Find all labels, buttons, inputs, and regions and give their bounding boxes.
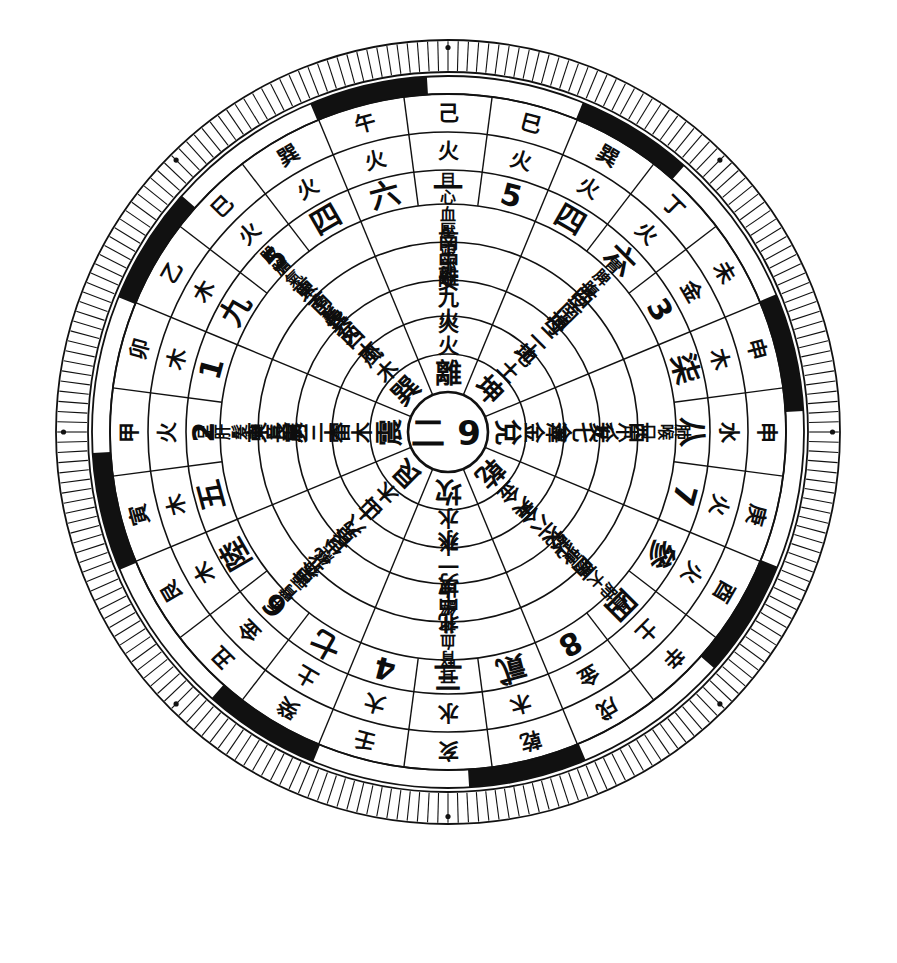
center-label-right: 9	[457, 413, 481, 453]
outer-element-glyph: 火	[155, 422, 179, 443]
outer-stem-branch-glyph: 己	[438, 101, 459, 125]
ring-text-layer: 己火一巳火5巽火四丁火六未金3申木柒申水八庚火7酉火參辛土四戌金8乾木貳亥水三壬…	[117, 101, 779, 763]
outer-element-glyph: 火	[676, 557, 707, 587]
trigram-element-glyph: 金	[522, 421, 546, 444]
luopan-figure-canvas: 己火一巳火5巽火四丁火六未金3申木柒申水八庚火7酉火參辛土四戌金8乾木貳亥水三壬…	[0, 0, 897, 963]
outer-stem-branch-glyph: 午	[352, 110, 378, 139]
outer-stem-branch-glyph: 卯	[126, 336, 155, 362]
outer-number-glyph: 貳	[492, 648, 530, 690]
outer-element-glyph: 木	[189, 276, 221, 308]
outer-stem-branch-glyph: 乾	[517, 726, 543, 755]
outer-element-glyph: 金	[675, 276, 707, 308]
outer-number-glyph: 九	[213, 288, 258, 331]
outer-element-glyph: 火	[233, 217, 265, 249]
trigram-element-glyph: 澤	[544, 422, 568, 443]
outer-element-glyph: 火	[292, 173, 322, 204]
trigram-glyph: 離	[435, 358, 462, 389]
outer-number-glyph: 3	[640, 292, 681, 328]
outer-number-glyph: 四	[304, 197, 347, 242]
outer-stem-branch-glyph: 丁	[658, 191, 690, 223]
trigram-element-glyph: 木	[350, 421, 374, 444]
outer-element-glyph: 土	[631, 615, 663, 647]
outer-stem-branch-glyph: 巳	[517, 110, 543, 139]
outer-number-glyph: 陸	[213, 533, 258, 576]
outer-element-glyph: 水	[717, 422, 741, 444]
outer-element-glyph: 火	[631, 217, 663, 249]
outer-element-glyph: 火	[438, 139, 459, 163]
luopan-compass-diagram: 己火一巳火5巽火四丁火六未金3申木柒申水八庚火7酉火參辛土四戌金8乾木貳亥水三壬…	[0, 0, 897, 963]
trigram-element-glyph: 雷	[328, 422, 352, 443]
outer-element-glyph: 土	[292, 660, 322, 691]
outer-number-glyph: 七	[304, 622, 347, 667]
outer-stem-branch-glyph: 未	[709, 257, 740, 287]
outer-element-glyph: 金	[573, 659, 605, 691]
trigram-element-glyph: 水	[437, 506, 459, 530]
outer-number-glyph: 六	[366, 175, 404, 217]
outer-stem-branch-glyph: 辛	[658, 642, 690, 674]
outer-element-glyph: 木	[507, 689, 535, 718]
outer-stem-branch-glyph: 巽	[592, 140, 622, 171]
trigram-glyph: 震	[374, 418, 405, 446]
outer-element-glyph: 大	[362, 689, 388, 718]
outer-number-glyph: 參	[637, 533, 683, 577]
outer-number-glyph: 5	[497, 176, 526, 215]
outer-element-glyph: 火	[507, 146, 533, 175]
outer-element-glyph: 木	[189, 557, 221, 589]
outer-number-glyph: 7	[665, 481, 704, 510]
outer-element-glyph: 火	[362, 146, 388, 175]
outer-element-glyph: 火	[573, 173, 603, 204]
outer-stem-branch-glyph: 壬	[352, 726, 378, 755]
outer-stem-branch-glyph: 甲	[117, 422, 141, 443]
outer-element-glyph: 水	[437, 701, 459, 725]
trigram-glyph: 兌	[492, 419, 523, 446]
outer-stem-branch-glyph: 艮	[156, 576, 188, 607]
outer-element-glyph: 火	[705, 491, 734, 517]
outer-stem-branch-glyph: 寅	[126, 501, 155, 527]
outer-number-glyph: 4	[370, 649, 399, 688]
outer-stem-branch-glyph: 戌	[592, 693, 622, 724]
outer-stem-branch-glyph: 申	[755, 422, 779, 443]
outer-number-glyph: 五	[191, 476, 233, 514]
outer-stem-branch-glyph: 亥	[438, 739, 459, 763]
outer-stem-branch-glyph: 巽	[273, 140, 303, 171]
outer-stem-branch-glyph: 酉	[709, 576, 740, 606]
outer-number-glyph: 1	[192, 354, 231, 383]
outer-element-glyph: 木	[162, 491, 191, 519]
outer-number-glyph: 8	[553, 624, 589, 665]
outer-number-glyph: 四	[549, 197, 592, 242]
outer-stem-branch-glyph: 丑	[207, 642, 239, 674]
outer-element-glyph: 金	[233, 614, 266, 647]
outer-stem-branch-glyph: 乙	[156, 257, 187, 287]
trigram-element-glyph: 水	[437, 528, 459, 552]
outer-stem-branch-glyph: 庚	[742, 501, 771, 527]
trigram-glyph: 坎	[435, 476, 462, 507]
outer-element-glyph: 木	[162, 345, 191, 373]
trigram-element-glyph: 火	[438, 312, 459, 336]
center-label-left: 二	[411, 413, 445, 453]
outer-element-glyph: 木	[705, 345, 734, 373]
center-core: 二 9	[408, 392, 488, 472]
outer-stem-branch-glyph: 申	[742, 336, 771, 362]
outer-number-glyph: 柒	[664, 350, 706, 388]
trigram-element-glyph: 火	[438, 334, 459, 358]
outer-stem-branch-glyph: 癸	[273, 692, 305, 724]
outer-stem-branch-glyph: 巳	[207, 191, 239, 223]
